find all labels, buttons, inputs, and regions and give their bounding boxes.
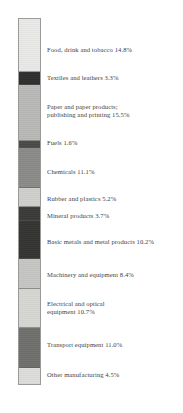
- bar-segment: [19, 141, 40, 148]
- segment-label-line: Basic metals and metal products 10.2%: [47, 238, 181, 246]
- segment-label: Electrical and opticalequipment 10.7%: [47, 300, 181, 317]
- bar-segment: [19, 19, 40, 72]
- bar-segment: [19, 221, 40, 258]
- segment-label-line: Rubber and plastics 5.2%: [47, 195, 181, 203]
- segment-label: Textiles and leathers 3.3%: [47, 74, 181, 82]
- segment-label: Fuels 1.6%: [47, 139, 181, 147]
- segment-label: Food, drink and tobacco 14.8%: [47, 46, 181, 54]
- stacked-bar-column: [18, 18, 41, 385]
- segment-label-line: Chemicals 11.1%: [47, 168, 181, 176]
- bar-segment: [19, 188, 40, 207]
- segment-label-line: Transport equipment 11.0%: [47, 341, 181, 349]
- segment-label-line: Paper and paper products;: [47, 103, 181, 111]
- bar-segment: [19, 368, 40, 384]
- segment-label: Mineral products 3.7%: [47, 212, 181, 220]
- segment-label: Paper and paper products;publishing and …: [47, 103, 181, 120]
- bar-segment: [19, 289, 40, 328]
- bar-segment: [19, 72, 40, 85]
- bar-segment: [19, 207, 40, 221]
- segment-label: Other manufacturing 4.5%: [47, 371, 181, 379]
- segment-label-line: Food, drink and tobacco 14.8%: [47, 46, 181, 54]
- bar-segment: [19, 148, 40, 188]
- segment-label: Transport equipment 11.0%: [47, 341, 181, 349]
- segment-label: Rubber and plastics 5.2%: [47, 195, 181, 203]
- segment-label-line: Machinery and equipment 8.4%: [47, 271, 181, 279]
- bar-segment: [19, 259, 40, 290]
- segment-label-line: Electrical and optical: [47, 300, 181, 308]
- stacked-bar-chart: Food, drink and tobacco 14.8%Textiles an…: [0, 0, 183, 413]
- segment-label: Chemicals 11.1%: [47, 168, 181, 176]
- segment-label-line: equipment 10.7%: [47, 308, 181, 316]
- segment-label-line: publishing and printing 15.5%: [47, 111, 181, 119]
- bar-segment: [19, 85, 40, 141]
- segment-label-line: Mineral products 3.7%: [47, 212, 181, 220]
- segment-label-line: Other manufacturing 4.5%: [47, 371, 181, 379]
- segment-label: Machinery and equipment 8.4%: [47, 271, 181, 279]
- segment-label-line: Textiles and leathers 3.3%: [47, 74, 181, 82]
- segment-label-line: Fuels 1.6%: [47, 139, 181, 147]
- segment-label: Basic metals and metal products 10.2%: [47, 238, 181, 246]
- bar-segment: [19, 328, 40, 368]
